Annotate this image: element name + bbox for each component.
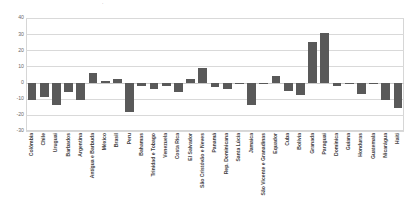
x-tick-label: Granada: [310, 133, 315, 154]
x-tick-label: Argentina: [78, 133, 83, 157]
x-label-slot: Dominica: [331, 132, 343, 204]
bar-slot: [270, 18, 282, 131]
bar: [125, 83, 134, 112]
bar: [235, 83, 244, 85]
bar-slot: [160, 18, 172, 131]
x-tick-label: Costa Rica: [176, 133, 181, 159]
bar: [333, 83, 342, 86]
bar: [174, 83, 183, 93]
x-tick-label: Haiti: [395, 133, 400, 144]
bar-slot: [258, 18, 270, 131]
bar-series: [26, 18, 404, 131]
bar-slot: [367, 18, 379, 131]
bar: [52, 83, 61, 106]
y-tick-label: -20: [2, 112, 24, 117]
bar-slot: [99, 18, 111, 131]
x-tick-label: Guatemala: [371, 133, 376, 159]
bar-slot: [355, 18, 367, 131]
bar: [28, 83, 37, 101]
x-label-slot: Costa Rica: [172, 132, 184, 204]
x-label-slot: Jamaica: [245, 132, 257, 204]
x-tick-label: São Cristóvão e Neves: [200, 133, 205, 188]
x-tick-label: Venezuela: [164, 133, 169, 158]
bar: [272, 76, 281, 82]
x-label-slot: Granada: [306, 132, 318, 204]
bar-slot: [233, 18, 245, 131]
x-label-slot: Argentina: [75, 132, 87, 204]
x-tick-label: São Vicente e Granadinas: [261, 133, 266, 195]
bar: [198, 68, 207, 83]
x-tick-label: Bolívia: [298, 133, 303, 150]
bar: [357, 83, 366, 94]
bar: [101, 81, 110, 83]
x-label-slot: Guiana: [343, 132, 355, 204]
bar: [89, 73, 98, 83]
y-tick-label: -30: [2, 128, 24, 133]
bar-slot: [380, 18, 392, 131]
x-tick-label: El Salvador: [188, 133, 193, 161]
bar: [223, 83, 232, 89]
bar-slot: [87, 18, 99, 131]
x-label-slot: Guatemala: [367, 132, 379, 204]
x-label-slot: São Vicente e Granadinas: [258, 132, 270, 204]
bar-slot: [343, 18, 355, 131]
x-label-slot: Brasil: [111, 132, 123, 204]
bar-slot: [306, 18, 318, 131]
x-tick-label: Barbados: [66, 133, 71, 157]
x-label-slot: Haiti: [392, 132, 404, 204]
bar-slot: [124, 18, 136, 131]
x-label-slot: Colômbia: [26, 132, 38, 204]
x-label-slot: Panamá: [209, 132, 221, 204]
bar: [296, 83, 305, 96]
x-tick-label: Antígua e Barbuda: [91, 133, 96, 178]
x-label-slot: El Salvador: [185, 132, 197, 204]
bar: [186, 79, 195, 82]
bar: [320, 33, 329, 83]
x-tick-label: Nicarágua: [383, 133, 388, 158]
bar-slot: [319, 18, 331, 131]
x-label-slot: Antígua e Barbuda: [87, 132, 99, 204]
x-label-slot: Honduras: [355, 132, 367, 204]
x-tick-label: Guiana: [347, 133, 352, 150]
plot-area: [26, 18, 404, 131]
bar: [284, 83, 293, 91]
x-label-slot: Peru: [124, 132, 136, 204]
bar: [345, 83, 354, 85]
x-tick-label: Brasil: [115, 133, 120, 147]
y-tick-label: 20: [2, 48, 24, 53]
x-label-slot: Uruguai: [50, 132, 62, 204]
bar-slot: [75, 18, 87, 131]
x-label-slot: Barbados: [63, 132, 75, 204]
bar: [137, 83, 146, 86]
x-tick-label: Colômbia: [30, 133, 35, 156]
x-tick-label: Chile: [42, 133, 47, 145]
x-tick-label: Dominica: [334, 133, 339, 156]
bar-slot: [172, 18, 184, 131]
chart-title-remnant: .: [102, 0, 110, 5]
y-tick-label: 40: [2, 15, 24, 20]
x-label-slot: Venezuela: [160, 132, 172, 204]
bar-slot: [63, 18, 75, 131]
bar-slot: [392, 18, 404, 131]
bar-slot: [245, 18, 257, 131]
y-tick-label: 10: [2, 64, 24, 69]
x-tick-label: Uruguai: [54, 133, 59, 152]
x-label-slot: Nicarágua: [380, 132, 392, 204]
bar-slot: [331, 18, 343, 131]
bar-chart: . 403020100-10-20-30 ColômbiaChileUrugua…: [0, 0, 408, 205]
bar-slot: [294, 18, 306, 131]
x-tick-label: Paraguai: [322, 133, 327, 155]
y-tick-label: 30: [2, 32, 24, 37]
bar: [64, 83, 73, 93]
x-tick-label: Santa Lúcia: [237, 133, 242, 162]
y-tick-label: -10: [2, 96, 24, 101]
bar-slot: [209, 18, 221, 131]
bar: [259, 83, 268, 85]
x-tick-label: Bahamas: [139, 133, 144, 156]
x-label-slot: Santa Lúcia: [233, 132, 245, 204]
bar-slot: [136, 18, 148, 131]
bar: [113, 79, 122, 82]
bar-slot: [282, 18, 294, 131]
x-tick-label: Trinidad e Tobago: [151, 133, 156, 177]
x-label-slot: Equador: [270, 132, 282, 204]
